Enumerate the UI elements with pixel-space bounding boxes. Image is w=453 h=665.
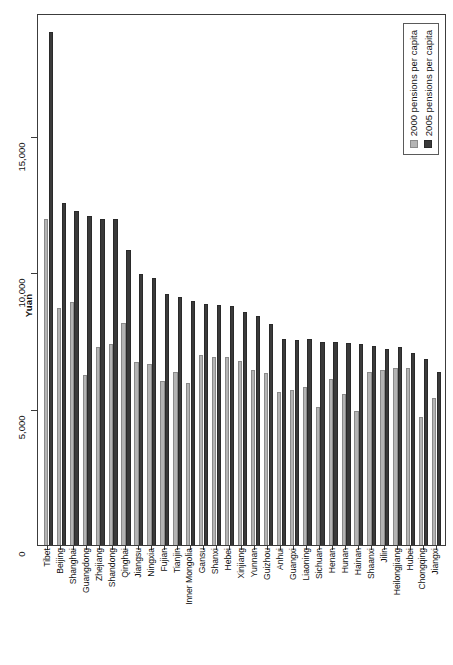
bar-group: [354, 15, 366, 545]
x-axis-tick-label: Tianjin: [173, 548, 182, 573]
bar-group: [277, 15, 289, 545]
bar: [165, 294, 169, 545]
y-axis-tick-label: 0: [22, 552, 33, 557]
bar: [295, 340, 299, 545]
bar: [230, 306, 234, 545]
x-axis-tick-labels: TibetBeijingShanghaiGuangdongZhejiangSha…: [37, 548, 446, 663]
bar: [372, 346, 376, 545]
bar-group: [70, 15, 82, 545]
bar-group: [147, 15, 159, 545]
x-axis-tick-label: Shanxi: [211, 548, 220, 574]
bar: [406, 368, 410, 545]
x-axis-tick-label: Xinjiang: [237, 548, 246, 579]
x-axis-tick-label: Shaanxi: [367, 548, 376, 579]
bar-group: [186, 15, 198, 545]
bar: [385, 349, 389, 545]
x-axis-tick-label: Hainan: [354, 548, 363, 575]
bar: [70, 302, 74, 545]
bar: [199, 355, 203, 545]
bar: [316, 407, 320, 545]
bar: [411, 353, 415, 545]
x-axis-tick-label: Guizhou: [263, 548, 272, 580]
x-axis-tick-label: Ningxia: [147, 548, 156, 577]
x-axis-tick-label: Liaoning: [302, 548, 311, 581]
legend: 2000 pensions per capita2005 pensions pe…: [403, 23, 439, 155]
legend-swatch: [410, 140, 418, 148]
x-axis-tick-label: Yunnan: [250, 548, 259, 577]
bar: [160, 381, 164, 545]
bar: [186, 383, 190, 545]
legend-entry: 2005 pensions per capita: [423, 29, 435, 149]
bar: [44, 219, 48, 545]
bar: [346, 343, 350, 545]
bar: [290, 390, 294, 546]
x-axis-tick-label: Jiangxi: [431, 548, 440, 575]
x-axis-tick-label: Hubei: [406, 548, 415, 570]
bar: [307, 339, 311, 545]
x-axis-tick-label: Fujian: [160, 548, 169, 571]
bar: [191, 301, 195, 545]
bar-group: [303, 15, 315, 545]
bar: [121, 323, 125, 545]
bar-group: [160, 15, 172, 545]
bar: [424, 359, 428, 545]
x-axis-tick-label: Shanghai: [69, 548, 78, 584]
bar-group: [199, 15, 211, 545]
bar-group: [212, 15, 224, 545]
bar: [204, 304, 208, 545]
bar: [62, 203, 66, 545]
x-axis-tick-label: Chongqing: [418, 548, 427, 590]
bar: [269, 324, 273, 545]
x-axis-tick-label: Guangdong: [82, 548, 91, 593]
x-axis-tick-label: Beijing: [56, 548, 65, 574]
legend-entry: 2000 pensions per capita: [408, 29, 420, 149]
x-axis-tick-label: Hebei: [224, 548, 233, 570]
x-axis-tick-label: Sichuan: [315, 548, 324, 579]
bar: [367, 372, 371, 545]
bar-group: [57, 15, 69, 545]
bar-group: [44, 15, 56, 545]
bar-group: [109, 15, 121, 545]
bar-group: [83, 15, 95, 545]
bar-chart: Yuan 05,00010,00015,000 2000 pensions pe…: [0, 0, 453, 665]
bar-group: [290, 15, 302, 545]
bar-group: [225, 15, 237, 545]
bar: [432, 398, 436, 545]
bar: [217, 305, 221, 545]
bars-layer: [38, 15, 445, 545]
y-axis-tick-label: 15,000: [22, 142, 33, 171]
bar: [74, 211, 78, 545]
x-axis-tick-label: Zhejiang: [95, 548, 104, 581]
bar-group: [380, 15, 392, 545]
x-axis-tick-label: Jiangsu: [134, 548, 143, 578]
x-axis-tick-label: Hunan: [341, 548, 350, 573]
bar: [329, 379, 333, 545]
bar: [113, 219, 117, 545]
bar: [320, 342, 324, 545]
bar: [256, 316, 260, 545]
bar-group: [367, 15, 379, 545]
bar: [251, 370, 255, 545]
bar: [282, 339, 286, 545]
bar-group: [121, 15, 133, 545]
x-axis-tick-label: Henan: [328, 548, 337, 573]
bar: [178, 297, 182, 545]
bar-group: [329, 15, 341, 545]
plot-area: 2000 pensions per capita2005 pensions pe…: [37, 14, 446, 546]
bar: [49, 32, 53, 545]
bar: [87, 216, 91, 545]
bar: [342, 394, 346, 545]
bar: [83, 375, 87, 546]
bar-group: [342, 15, 354, 545]
bar: [225, 357, 229, 545]
bar: [96, 347, 100, 545]
x-axis-tick-label: Guangxi: [289, 548, 298, 580]
x-axis-tick-label: Jilin: [380, 548, 389, 563]
bar: [139, 274, 143, 545]
bar: [126, 250, 130, 545]
bar: [419, 417, 423, 545]
x-axis-tick-label: Inner Mongolia: [185, 548, 194, 605]
legend-swatch: [424, 140, 432, 148]
bar: [303, 387, 307, 545]
legend-label: 2005 pensions per capita: [424, 30, 434, 136]
